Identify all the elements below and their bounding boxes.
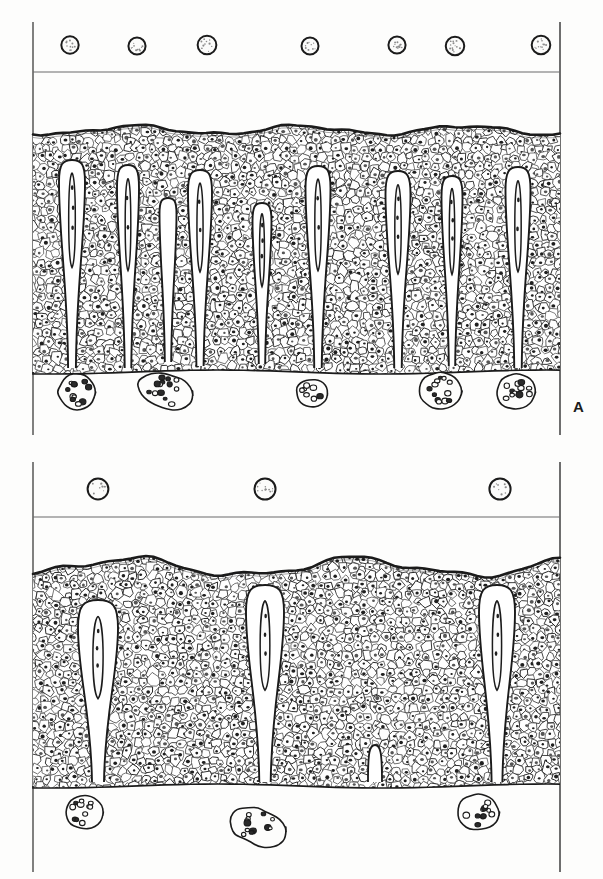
small-round-cell <box>61 36 78 53</box>
small-round-cell <box>128 37 145 54</box>
panel-label-a: A <box>573 399 584 414</box>
endothelial-nucleus <box>316 196 319 201</box>
endothelial-nucleus <box>516 227 519 232</box>
endothelial-nucleus <box>97 629 100 634</box>
small-round-cell <box>301 37 318 54</box>
granular-cell <box>297 380 328 407</box>
capillary-loop <box>197 183 203 272</box>
endothelial-nucleus <box>497 633 500 638</box>
small-round-cell <box>254 478 275 499</box>
small-round-cell <box>198 36 217 55</box>
endothelial-nucleus <box>199 228 202 233</box>
endothelial-nucleus <box>517 198 520 203</box>
endothelial-nucleus <box>71 185 74 190</box>
granular-cell <box>66 795 103 828</box>
endothelial-nucleus <box>317 225 320 230</box>
granular-cell <box>138 373 193 410</box>
panel-a: A <box>0 0 603 440</box>
granular-cell <box>419 372 462 409</box>
free-cells-lower-a <box>58 372 536 410</box>
endothelial-nucleus <box>396 216 399 221</box>
free-cells-upper-a <box>61 36 550 56</box>
endothelial-nucleus <box>72 205 75 210</box>
granular-cell <box>458 794 500 830</box>
endothelial-nucleus <box>261 238 264 243</box>
small-round-cell <box>88 479 109 500</box>
capillary-loop <box>315 179 321 271</box>
endothelial-nucleus <box>496 614 499 619</box>
free-cells-lower-b <box>66 794 499 847</box>
endothelial-nucleus <box>397 197 400 202</box>
capillary-loop <box>515 180 521 272</box>
endothelial-nucleus <box>264 633 267 638</box>
panel-b: B <box>0 440 603 879</box>
panel-a-illustration <box>0 0 603 440</box>
shallow-rete-notch <box>368 745 382 782</box>
panel-b-illustration <box>0 440 603 879</box>
endothelial-nucleus <box>495 651 498 656</box>
endothelial-nucleus <box>450 200 453 205</box>
figure-root: A B <box>0 0 603 879</box>
endothelial-nucleus <box>261 254 264 259</box>
small-round-cell <box>446 37 465 56</box>
small-round-cell <box>532 36 551 55</box>
endothelial-nucleus <box>264 614 267 619</box>
free-cells-upper-b <box>88 478 511 499</box>
granular-cell <box>230 808 286 848</box>
small-round-cell <box>489 478 510 499</box>
endothelial-nucleus <box>198 199 201 204</box>
granular-cell <box>58 374 96 410</box>
endothelial-nucleus <box>261 223 264 228</box>
endothelial-nucleus <box>96 663 99 668</box>
endothelial-nucleus <box>451 236 454 241</box>
capillary-loop <box>125 178 131 270</box>
endothelial-nucleus <box>71 225 74 230</box>
small-round-cell <box>388 36 405 53</box>
capillary-loop <box>492 601 501 691</box>
endothelial-nucleus <box>264 651 267 656</box>
endothelial-nucleus <box>96 646 99 651</box>
endothelial-nucleus <box>451 218 454 223</box>
endothelial-nucleus <box>397 234 400 239</box>
granular-cell <box>497 374 536 409</box>
endothelial-nucleus <box>126 196 129 201</box>
capillary-loop <box>93 616 103 699</box>
endothelial-nucleus <box>127 225 130 230</box>
